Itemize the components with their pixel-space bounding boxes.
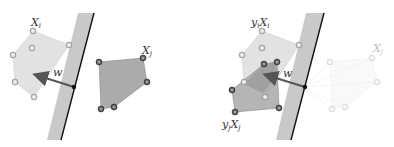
anchor-point-right xyxy=(303,85,307,89)
xj-faded-group: Xj xyxy=(305,42,384,112)
diagram-canvas: Xi Xj w Xj xyxy=(0,0,394,147)
right-panel: Xj xyxy=(221,13,384,140)
xj-label: Xj xyxy=(141,44,153,58)
yixi-label: yiXi xyxy=(250,16,270,30)
xi-label: Xi xyxy=(30,16,41,30)
w-label: w xyxy=(53,66,63,79)
xj-faded-hull xyxy=(330,58,377,109)
left-panel: Xi Xj w xyxy=(10,13,153,140)
xj-faded-label: Xj xyxy=(372,42,384,56)
anchor-point xyxy=(72,85,76,89)
yjxj-label: yjXj xyxy=(221,118,241,132)
w-label-right: w xyxy=(283,67,293,80)
xj-hull xyxy=(99,58,147,109)
